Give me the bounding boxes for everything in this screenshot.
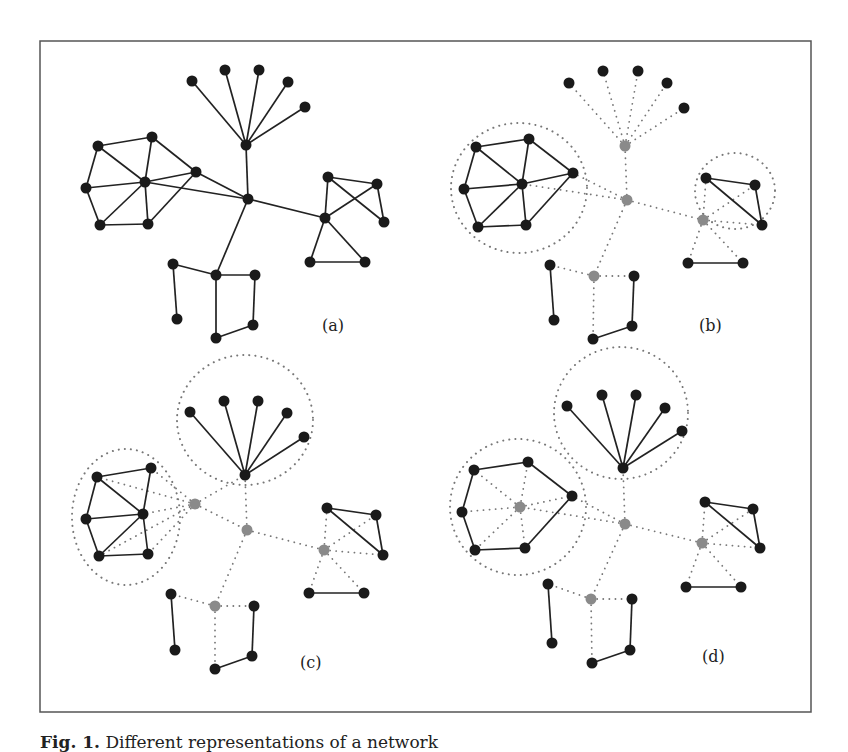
abstract-edge [247, 530, 324, 550]
abstract-edge [215, 530, 247, 606]
node [660, 403, 671, 414]
abstract-edge [703, 178, 706, 220]
node [360, 257, 371, 268]
edge [623, 395, 636, 468]
edge [464, 184, 522, 189]
summary-node [515, 502, 526, 513]
abstract-edge [151, 468, 195, 504]
node [631, 390, 642, 401]
edge [98, 137, 152, 146]
node [545, 260, 556, 271]
summary-node [697, 538, 708, 549]
node [587, 658, 598, 669]
node [517, 179, 528, 190]
abstract-edge [594, 200, 627, 276]
abstract-edge [569, 83, 625, 146]
abstract-edge [625, 83, 667, 146]
edge [592, 650, 630, 663]
node [755, 543, 766, 554]
node [618, 463, 629, 474]
abstract-edge [625, 108, 684, 146]
edge [623, 408, 665, 468]
edge [99, 554, 148, 556]
edge [478, 225, 526, 227]
edge [623, 431, 682, 468]
edge [310, 218, 325, 262]
panel-b: (b) [451, 66, 775, 345]
node [240, 470, 251, 481]
node [736, 582, 747, 593]
node [191, 167, 202, 178]
node [523, 457, 534, 468]
node [305, 257, 316, 268]
edge [630, 599, 632, 650]
node [625, 645, 636, 656]
node [248, 320, 259, 331]
node [379, 217, 390, 228]
summary-node [319, 545, 330, 556]
node [681, 582, 692, 593]
abstract-edge [324, 515, 376, 550]
abstract-edge [195, 504, 247, 530]
node [185, 407, 196, 418]
node [210, 664, 221, 675]
node [547, 638, 558, 649]
edge [476, 139, 529, 147]
node [683, 258, 694, 269]
edge [86, 514, 143, 519]
edge [529, 139, 573, 173]
node [757, 220, 768, 231]
abstract-edge [572, 496, 625, 524]
edge [522, 139, 529, 184]
node [300, 102, 311, 113]
abstract-edge [591, 599, 592, 663]
edge [173, 264, 216, 275]
node [457, 507, 468, 518]
edge [528, 462, 572, 496]
abstract-edge [324, 508, 327, 550]
node [187, 76, 198, 87]
abstract-edge [309, 550, 324, 593]
node [94, 551, 105, 562]
node [243, 194, 254, 205]
panel-a: (a) [81, 65, 390, 344]
node [81, 514, 92, 525]
edge [86, 519, 99, 556]
edge [97, 468, 151, 477]
panel-label: (a) [322, 316, 344, 335]
edge [462, 512, 475, 550]
node [147, 132, 158, 143]
edge [86, 146, 98, 188]
edge [325, 184, 377, 218]
node [471, 142, 482, 153]
edge [548, 584, 552, 643]
node [143, 219, 154, 230]
edge [98, 146, 145, 182]
node [220, 65, 231, 76]
abstract-edge [520, 462, 528, 507]
abstract-edge [573, 173, 627, 200]
node [138, 509, 149, 520]
node [597, 390, 608, 401]
abstract-edge [688, 220, 703, 263]
node [92, 472, 103, 483]
edge [522, 184, 526, 225]
node [701, 173, 712, 184]
node [738, 258, 749, 269]
edge [86, 182, 145, 188]
node [679, 103, 690, 114]
abstract-edge [603, 71, 625, 146]
edge [248, 199, 325, 218]
node [320, 213, 331, 224]
node [378, 550, 389, 561]
node [470, 545, 481, 556]
abstract-edge [548, 584, 591, 599]
edge [475, 548, 525, 550]
node [323, 172, 334, 183]
node [371, 510, 382, 521]
abstract-edge [148, 504, 195, 554]
node [748, 504, 759, 515]
panel-d: (d) [450, 347, 766, 669]
panel-label: (d) [702, 647, 725, 666]
node [143, 549, 154, 560]
